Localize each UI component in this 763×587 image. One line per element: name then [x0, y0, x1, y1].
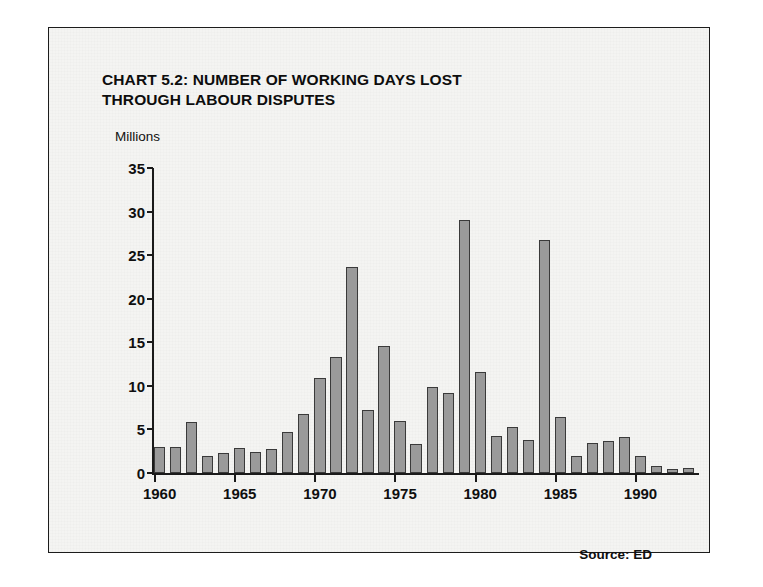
y-axis-tick	[147, 472, 153, 474]
chart-panel: CHART 5.2: NUMBER OF WORKING DAYS LOST T…	[48, 27, 710, 553]
bar	[394, 421, 405, 473]
bar	[459, 220, 470, 473]
x-axis-tick	[475, 473, 477, 482]
chart-title-line-2: THROUGH LABOUR DISPUTES	[102, 90, 572, 110]
y-axis-tick	[147, 211, 153, 213]
y-axis-tick	[147, 341, 153, 343]
bar	[282, 432, 293, 473]
x-axis-tick-label: 1975	[383, 485, 416, 502]
bar	[475, 372, 486, 473]
x-axis-tick	[154, 473, 156, 482]
bar	[346, 267, 357, 473]
x-axis-tick	[234, 473, 236, 482]
x-axis-tick-label: 1965	[223, 485, 256, 502]
y-axis-tick-label: 35	[128, 160, 145, 177]
bar	[523, 440, 534, 473]
screenshot-page: CHART 5.2: NUMBER OF WORKING DAYS LOST T…	[0, 0, 763, 587]
bar	[571, 456, 582, 473]
y-axis-tick	[147, 385, 153, 387]
x-axis-tick-label: 1970	[303, 485, 336, 502]
y-axis-tick-label: 20	[128, 290, 145, 307]
x-axis-tick	[394, 473, 396, 482]
bar	[378, 346, 389, 473]
x-axis-tick-label: 1960	[143, 485, 176, 502]
y-axis-tick	[147, 254, 153, 256]
bar	[667, 469, 678, 473]
x-axis-tick-label: 1985	[544, 485, 577, 502]
y-axis-tick	[147, 298, 153, 300]
bar	[330, 357, 341, 473]
bar	[234, 448, 245, 473]
bar	[266, 449, 277, 473]
chart-title: CHART 5.2: NUMBER OF WORKING DAYS LOST T…	[102, 70, 572, 110]
bar	[314, 378, 325, 473]
bar	[603, 441, 614, 473]
bar	[362, 410, 373, 473]
y-axis-tick-label: 30	[128, 203, 145, 220]
bar	[186, 422, 197, 473]
x-axis-tick-label: 1990	[624, 485, 657, 502]
bar	[154, 447, 165, 473]
bar	[683, 468, 694, 473]
x-axis-tick	[635, 473, 637, 482]
y-axis-tick-label: 15	[128, 334, 145, 351]
bar	[635, 456, 646, 473]
bar	[298, 414, 309, 473]
bar	[539, 240, 550, 473]
source-note: Source: ED	[579, 547, 652, 562]
y-axis-tick-label: 25	[128, 247, 145, 264]
y-axis-tick	[147, 167, 153, 169]
bar	[507, 427, 518, 473]
bar	[250, 452, 261, 473]
bar	[170, 447, 181, 473]
y-axis-tick-label: 5	[137, 421, 145, 438]
chart-title-line-1: CHART 5.2: NUMBER OF WORKING DAYS LOST	[102, 71, 462, 88]
bar	[410, 444, 421, 473]
plot-area: 05101520253035 1960196519701975198019851…	[154, 168, 699, 473]
x-axis-tick	[314, 473, 316, 482]
bar	[202, 456, 213, 473]
x-axis-tick	[555, 473, 557, 482]
y-axis-tick	[147, 428, 153, 430]
bar	[555, 417, 566, 473]
bar	[651, 466, 662, 473]
bar	[218, 453, 229, 473]
bar	[587, 443, 598, 474]
bar	[619, 437, 630, 473]
bar	[443, 393, 454, 473]
x-axis-tick-label: 1980	[464, 485, 497, 502]
y-axis-tick-label: 10	[128, 377, 145, 394]
bar	[491, 436, 502, 473]
y-axis-tick-label: 0	[137, 465, 145, 482]
y-axis-unit-caption: Millions	[115, 129, 160, 144]
bar	[427, 387, 438, 473]
